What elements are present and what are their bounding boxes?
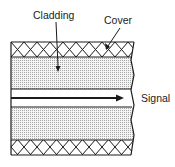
bottom-cover (11, 140, 136, 155)
top-cladding (11, 57, 136, 89)
signal-label: Signal (141, 92, 170, 104)
cladding-label: Cladding (33, 9, 75, 21)
bottom-cladding (11, 107, 136, 140)
top-cover (11, 42, 136, 57)
fiber-diagram: Cladding Cover Signal (0, 0, 175, 167)
cover-label: Cover (104, 14, 133, 26)
